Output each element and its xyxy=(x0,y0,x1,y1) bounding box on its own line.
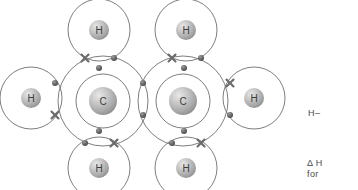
electron-dot-bond-top-left xyxy=(111,55,117,61)
label-hydrogen-left: H xyxy=(27,93,34,104)
electron-dot-carbon-right-bottom xyxy=(181,128,187,134)
electron-dot-bond-bottom-right xyxy=(169,140,175,146)
label-hydrogen-right: H xyxy=(250,93,257,104)
label-carbon-left: C xyxy=(99,96,106,107)
label-hydrogen-bottom-left: H xyxy=(95,163,102,174)
label-hydrogen-top-right: H xyxy=(182,25,189,36)
ethene-dot-and-cross-diagram: C C H H H H H H xyxy=(0,0,358,190)
electron-dot-bond-bottom-left xyxy=(82,140,88,146)
label-hydrogen-top-left: H xyxy=(95,25,102,36)
electron-dot-bond-left xyxy=(52,80,58,86)
enthalpy-note-line-1: Δ H xyxy=(307,158,323,169)
electron-dot-bond-right xyxy=(227,112,233,118)
label-carbon-right: C xyxy=(179,96,186,107)
electron-dot-double-bond-upper xyxy=(140,80,146,86)
electron-dot-bond-top-right xyxy=(198,55,204,61)
enthalpy-note-line-2: for xyxy=(307,169,323,180)
electron-dot-carbon-left-top xyxy=(96,65,102,71)
electron-dot-carbon-right-top xyxy=(181,65,187,71)
enthalpy-note: Δ H for xyxy=(307,158,323,180)
electron-cross-bond-top-left xyxy=(82,55,89,62)
electron-cross-bond-right xyxy=(227,80,234,87)
electron-shells-group xyxy=(0,0,285,190)
figure-canvas: C C H H H H H H xyxy=(0,0,358,190)
valence-electrons-group xyxy=(52,55,234,147)
structural-formula-note: H– xyxy=(308,108,320,119)
electron-dot-carbon-left-bottom xyxy=(96,128,102,134)
electron-dot-double-bond-lower xyxy=(140,112,146,118)
label-hydrogen-bottom-right: H xyxy=(182,163,189,174)
